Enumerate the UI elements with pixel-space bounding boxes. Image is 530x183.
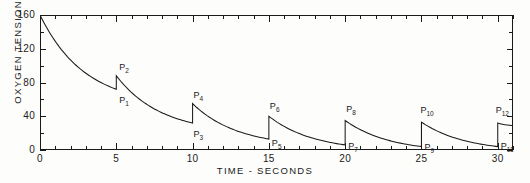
x-tick-label: 15 — [254, 153, 284, 164]
x-tick-major-top — [193, 15, 194, 22]
x-tick-major — [498, 143, 499, 150]
p-index: 1 — [125, 100, 129, 107]
point-label-p12: P12 — [496, 105, 509, 117]
x-tick-major — [193, 143, 194, 150]
p-index: 10 — [426, 110, 433, 117]
data-curve — [40, 15, 513, 150]
x-tick-minor — [147, 146, 148, 150]
y-tick-label: 40 — [9, 110, 35, 121]
x-tick-minor-top — [315, 15, 316, 19]
x-tick-minor-top — [71, 15, 72, 19]
x-tick-minor-top — [254, 15, 255, 19]
x-tick-minor — [132, 146, 133, 150]
x-tick-major-top — [269, 15, 270, 22]
x-tick-minor — [360, 146, 361, 150]
y-tick-major — [40, 15, 46, 16]
x-tick-minor-top — [452, 15, 453, 19]
x-tick-minor — [55, 146, 56, 150]
x-tick-major — [116, 143, 117, 150]
x-tick-minor-top — [162, 15, 163, 19]
x-tick-major — [40, 143, 41, 150]
x-tick-major-top — [498, 15, 499, 22]
point-label-p11: P11 — [501, 141, 514, 153]
y-tick-minor-right — [509, 66, 513, 67]
x-tick-minor-top — [238, 15, 239, 19]
x-tick-minor — [482, 146, 483, 150]
x-tick-minor-top — [284, 15, 285, 19]
y-tick-minor — [40, 99, 44, 100]
point-label-p4: P4 — [194, 90, 204, 102]
x-tick-label: 5 — [101, 153, 131, 164]
y-tick-major — [40, 116, 46, 117]
point-label-p6: P6 — [270, 101, 280, 113]
x-tick-minor-top — [482, 15, 483, 19]
x-tick-minor — [208, 146, 209, 150]
x-tick-label: 20 — [330, 153, 360, 164]
point-label-p3: P3 — [194, 129, 204, 141]
point-label-p2: P2 — [119, 62, 129, 74]
point-label-p7: P7 — [348, 141, 358, 153]
x-tick-major — [421, 143, 422, 150]
x-tick-minor — [284, 146, 285, 150]
x-tick-label: 25 — [406, 153, 436, 164]
p-index: 6 — [276, 106, 280, 113]
x-axis-title: TIME - SECONDS — [180, 165, 350, 176]
x-tick-label: 30 — [483, 153, 513, 164]
x-tick-minor — [376, 146, 377, 150]
x-tick-minor-top — [86, 15, 87, 19]
figure: OXYGEN TENSION-MM HG TIME - SECONDS 0510… — [0, 0, 530, 183]
y-tick-minor-right — [509, 133, 513, 134]
y-tick-label: 160 — [9, 9, 35, 20]
x-tick-major-top — [40, 15, 41, 22]
p-index: 8 — [352, 109, 356, 116]
x-tick-minor — [437, 146, 438, 150]
p-index: 4 — [200, 94, 204, 101]
point-label-p5: P5 — [272, 138, 282, 150]
x-tick-minor — [406, 146, 407, 150]
x-tick-minor — [71, 146, 72, 150]
x-tick-minor-top — [223, 15, 224, 19]
x-tick-minor-top — [55, 15, 56, 19]
x-tick-minor — [86, 146, 87, 150]
y-tick-major — [40, 83, 46, 84]
x-tick-minor-top — [406, 15, 407, 19]
x-tick-minor — [299, 146, 300, 150]
y-tick-minor — [40, 133, 44, 134]
x-tick-major — [345, 143, 346, 150]
x-tick-minor-top — [391, 15, 392, 19]
x-tick-minor — [238, 146, 239, 150]
x-tick-minor — [467, 146, 468, 150]
y-tick-minor — [40, 66, 44, 67]
x-tick-major-top — [116, 15, 117, 22]
x-tick-minor — [452, 146, 453, 150]
point-label-p10: P10 — [420, 105, 433, 117]
x-tick-minor-top — [132, 15, 133, 19]
p-index: 7 — [354, 146, 358, 153]
x-tick-minor-top — [299, 15, 300, 19]
x-tick-minor — [254, 146, 255, 150]
y-tick-minor — [40, 32, 44, 33]
x-tick-minor — [101, 146, 102, 150]
y-tick-major — [40, 150, 46, 151]
x-tick-minor — [177, 146, 178, 150]
x-tick-minor — [315, 146, 316, 150]
p-index: 5 — [278, 143, 282, 150]
x-tick-minor-top — [437, 15, 438, 19]
x-tick-major-top — [345, 15, 346, 22]
x-tick-minor-top — [360, 15, 361, 19]
y-tick-major-right — [507, 83, 513, 84]
x-tick-minor — [162, 146, 163, 150]
x-tick-major — [269, 143, 270, 150]
x-tick-minor-top — [177, 15, 178, 19]
p-index: 3 — [200, 134, 204, 141]
x-tick-label: 10 — [178, 153, 208, 164]
y-tick-minor-right — [509, 32, 513, 33]
y-tick-major — [40, 49, 46, 50]
point-label-p9: P9 — [424, 142, 434, 154]
x-tick-minor-top — [513, 15, 514, 19]
x-tick-minor — [330, 146, 331, 150]
x-tick-minor-top — [208, 15, 209, 19]
p-index: 11 — [507, 145, 514, 152]
x-tick-major-top — [421, 15, 422, 22]
x-tick-minor-top — [467, 15, 468, 19]
